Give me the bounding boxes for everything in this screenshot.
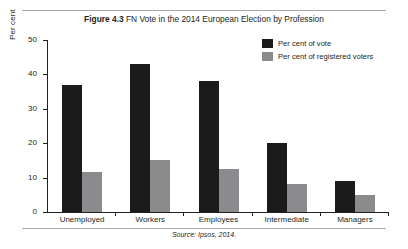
figure-container: Figure 4.3 FN Vote in the 2014 European … [0, 0, 408, 249]
x-axis-category-labels: Unemployed Workers Employees Intermediat… [48, 215, 389, 225]
y-axis-title: Per cent [8, 26, 17, 40]
bar-unemployed-registered [82, 172, 102, 212]
bar-group-unemployed [48, 40, 116, 212]
bar-group-managers [321, 40, 389, 212]
x-label-managers: Managers [321, 215, 389, 225]
y-tick-30: 30 [43, 109, 47, 110]
y-tick-label-20: 20 [28, 139, 37, 147]
x-axis-line [47, 212, 389, 213]
y-tick-label-10: 10 [28, 174, 37, 182]
bar-intermediate-registered [287, 184, 307, 212]
x-label-workers: Workers [116, 215, 184, 225]
bar-group-intermediate [253, 40, 321, 212]
bar-managers-vote [335, 181, 355, 212]
bottom-divider [22, 228, 386, 229]
bar-workers-registered [150, 160, 170, 212]
x-label-unemployed: Unemployed [48, 215, 116, 225]
bar-group-employees [184, 40, 252, 212]
y-tick-10: 10 [43, 178, 47, 179]
bar-managers-registered [355, 195, 375, 212]
y-tick-label-50: 50 [28, 36, 37, 44]
y-tick-50: 50 [43, 40, 47, 41]
plot-area: 0 10 20 30 40 50 [47, 40, 389, 212]
y-tick-label-40: 40 [28, 70, 37, 78]
bar-groups [48, 40, 389, 212]
y-tick-40: 40 [43, 74, 47, 75]
x-label-intermediate: Intermediate [253, 215, 321, 225]
source-note: Source: Ipsos, 2014. [22, 231, 386, 238]
figure-title: Figure 4.3 FN Vote in the 2014 European … [22, 13, 386, 25]
bar-workers-vote [130, 64, 150, 212]
figure-title-text: FN Vote in the 2014 European Election by… [126, 14, 324, 24]
y-tick-label-30: 30 [28, 105, 37, 113]
y-tick-label-0: 0 [33, 208, 37, 216]
y-tick-0: 0 [43, 212, 47, 213]
bar-intermediate-vote [267, 143, 287, 212]
bar-employees-vote [199, 81, 219, 212]
bar-group-workers [116, 40, 184, 212]
y-tick-20: 20 [43, 143, 47, 144]
bar-employees-registered [219, 169, 239, 212]
x-label-employees: Employees [184, 215, 252, 225]
top-divider [22, 10, 386, 11]
figure-number: Figure 4.3 [84, 14, 124, 24]
bar-unemployed-vote [62, 85, 82, 212]
